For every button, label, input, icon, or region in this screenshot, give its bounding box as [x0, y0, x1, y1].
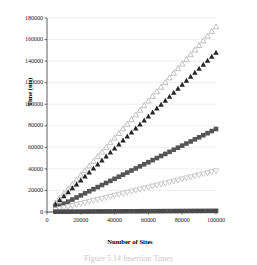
figure-caption: Figure 5.14 Insertion Times — [8, 254, 249, 263]
data-series-layer — [53, 24, 219, 214]
data-series — [53, 209, 218, 214]
data-series — [53, 127, 218, 210]
data-series — [53, 50, 219, 207]
plot-area — [0, 0, 257, 265]
data-series — [53, 24, 219, 205]
chart-figure: 0200004000060000800001000001200001400001… — [0, 0, 257, 265]
